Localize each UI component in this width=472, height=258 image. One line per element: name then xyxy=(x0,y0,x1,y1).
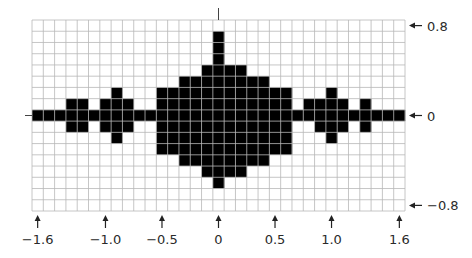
filled-cell-column xyxy=(337,99,349,133)
filled-cell-column xyxy=(77,99,89,133)
filled-cell-column xyxy=(292,110,304,121)
filled-cell-column xyxy=(111,87,123,143)
filled-cell-column xyxy=(360,99,372,133)
x-tick-label: −1.6 xyxy=(22,232,54,247)
x-tick-label: −1.0 xyxy=(90,232,122,247)
filled-cell-column xyxy=(371,110,383,121)
filled-cell-column xyxy=(326,87,338,143)
x-tick-label: −0.5 xyxy=(146,232,178,247)
filled-cell-column xyxy=(55,110,67,121)
x-tick-label: 0.5 xyxy=(265,232,286,247)
y-tick-label: 0 xyxy=(427,108,435,123)
filled-cell-column xyxy=(100,99,112,133)
filled-cell-column xyxy=(315,99,327,133)
filled-cell-column xyxy=(66,99,78,133)
filled-cell-column xyxy=(32,110,44,121)
filled-cell-column xyxy=(89,110,101,121)
x-tick-label: 1.0 xyxy=(321,232,342,247)
y-tick-label: −0.8 xyxy=(427,198,459,213)
filled-cell-column xyxy=(122,99,134,133)
filled-cell-column xyxy=(394,110,406,121)
filled-cell-column xyxy=(43,110,55,121)
y-tick-label: 0.8 xyxy=(427,18,448,33)
pixel-grid-chart xyxy=(0,0,472,258)
filled-cell-column xyxy=(348,110,360,121)
x-tick-label: 0 xyxy=(214,232,222,247)
filled-cell-column xyxy=(145,110,157,121)
x-tick-label: 1.6 xyxy=(389,232,410,247)
filled-cell-column xyxy=(134,110,146,121)
filled-cell-column xyxy=(382,110,394,121)
